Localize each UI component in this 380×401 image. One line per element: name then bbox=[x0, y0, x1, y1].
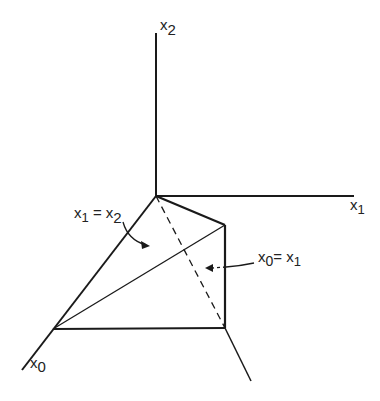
arrowhead-x1-eq-x2 bbox=[141, 241, 150, 249]
edge-diagonal bbox=[53, 225, 225, 329]
x0-axis-label: x0 bbox=[30, 354, 46, 375]
extension-line bbox=[225, 328, 251, 381]
plane-label-x1-eq-x2: x1 = x2 bbox=[74, 204, 122, 226]
leader-x0-eq-x1 bbox=[226, 263, 254, 267]
x0-axis bbox=[22, 196, 156, 370]
plane-label-x0-eq-x1: x0= x1 bbox=[258, 248, 301, 269]
edge-bottom bbox=[53, 328, 225, 329]
arrowhead-x0-eq-x1 bbox=[205, 264, 213, 272]
x1-axis-label: x1 bbox=[350, 196, 365, 217]
x2-axis-label: x2 bbox=[160, 16, 176, 38]
edge-dashed-hidden bbox=[156, 196, 225, 328]
edge-origin-to-top-right bbox=[156, 196, 225, 225]
coordinate-diagram: x2 x1 x0 x1 = x2 x0= x1 bbox=[0, 0, 380, 401]
